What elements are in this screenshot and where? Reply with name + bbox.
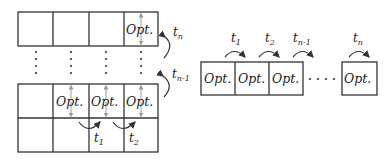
tn-label: tn: [173, 25, 183, 41]
tn-1-label: tn-1: [172, 67, 190, 83]
tn-side-arrow: tn: [164, 25, 183, 58]
seq-opt-2: Opt.: [238, 71, 265, 86]
bottom-step-arrows: t1 t2: [79, 122, 139, 147]
horizontal-dots: [309, 78, 335, 80]
opt-label: Opt.: [126, 22, 153, 37]
tn-1-side-arrow: tn-1: [163, 67, 190, 97]
seq-tn-1-label: tn-1: [293, 31, 311, 47]
seq-opt-3: Opt.: [272, 71, 299, 86]
opt-label: Opt.: [126, 94, 153, 109]
seq-t2-label: t2: [265, 31, 275, 47]
t2-label: t2: [129, 131, 139, 147]
vertical-dots: [35, 51, 142, 74]
seq-opt-n: Opt.: [344, 71, 371, 86]
opt-label: Opt.: [91, 94, 118, 109]
t1-label: t1: [94, 131, 104, 147]
sequence-step-arrows: [225, 52, 369, 58]
seq-tn-label: tn: [353, 31, 363, 47]
optimization-diagram: Opt. tn Opt. Opt. Opt. tn-1: [0, 0, 389, 161]
opt-label: Opt.: [56, 94, 83, 109]
seq-t1-label: t1: [231, 31, 241, 47]
seq-opt-1: Opt.: [204, 71, 231, 86]
top-row-opt-cell: Opt.: [126, 15, 153, 43]
